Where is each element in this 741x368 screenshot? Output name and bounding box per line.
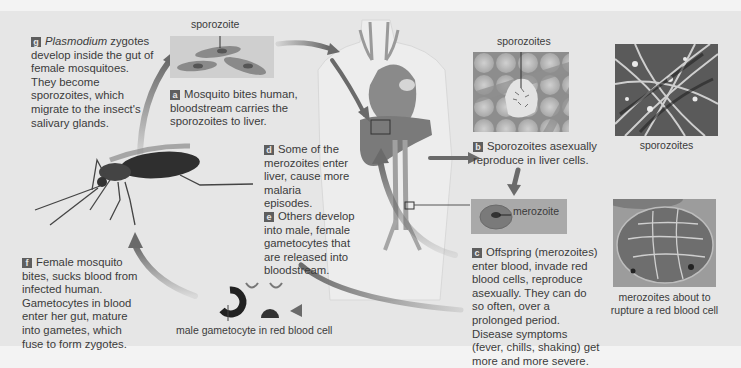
micrograph-merozoites (613, 199, 716, 287)
label-merozoite: merozoite (513, 205, 559, 217)
label-sporozoites-liver: sporozoites (497, 35, 551, 47)
step-e-text: Others develop into male, female gametoc… (264, 210, 355, 276)
label-sporozoite: sporozoite (191, 18, 239, 30)
sporozoite-illustration (170, 36, 274, 78)
caption-micrograph-sporozoites: sporozoites (615, 139, 718, 152)
step-b: bSporozoites asexually reproduce in live… (473, 140, 598, 167)
gametocyte-illustration (222, 283, 282, 321)
step-f: fFemale mosquito bites, sucks blood from… (22, 256, 144, 351)
step-g: gPlasmodium zygotes develop inside the g… (31, 35, 156, 130)
step-a-text: Mosquito bites human, bloodstream carrie… (170, 88, 298, 127)
step-g-italic: Plasmodium (45, 35, 107, 47)
liver-cells-illustration (473, 52, 569, 132)
step-a: aMosquito bites human, bloodstream carri… (170, 88, 305, 129)
step-badge-b: b (473, 142, 483, 152)
step-badge-g: g (31, 37, 41, 47)
step-badge-f: f (22, 258, 32, 268)
step-badge-a: a (170, 90, 180, 100)
step-b-text: Sporozoites asexually reproduce in liver… (473, 140, 597, 166)
step-g-text: zygotes develop inside the gut of female… (31, 35, 153, 129)
step-e: eOthers develop into male, female gameto… (264, 210, 359, 278)
label-male-gametocyte: male gametocyte in red blood cell (176, 324, 332, 336)
step-f-text: Female mosquito bites, sucks blood from … (22, 256, 138, 350)
micrograph-sporozoites (615, 44, 718, 136)
step-c-text: Offspring (merozoites) enter blood, inva… (472, 246, 599, 367)
step-badge-e: e (264, 212, 274, 222)
step-badge-d: d (264, 145, 274, 155)
step-d: dSome of the merozoites enter liver, cau… (264, 143, 352, 211)
mosquito-illustration (35, 146, 253, 225)
step-d-text: Some of the merozoites enter liver, caus… (264, 143, 349, 209)
step-c: cOffspring (merozoites) enter blood, inv… (472, 246, 600, 368)
step-badge-c: c (472, 248, 482, 258)
caption-micrograph-merozoites: merozoites about to rupture a red blood … (608, 291, 721, 316)
